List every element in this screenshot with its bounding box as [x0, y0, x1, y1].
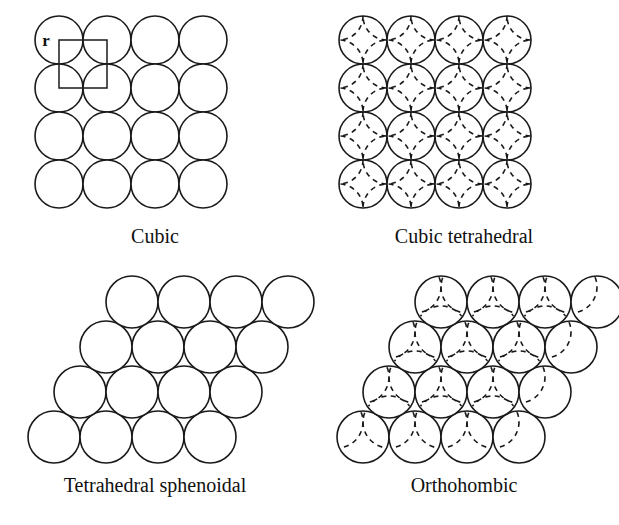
sphere: [35, 160, 83, 208]
sphere: [387, 16, 435, 64]
sphere: [184, 321, 236, 373]
sphere: [493, 321, 545, 373]
sphere: [483, 160, 531, 208]
sphere: [54, 366, 106, 418]
sphere: [467, 366, 519, 418]
sphere: [179, 64, 227, 112]
panel-caption-orthohombic: Orthohombic: [309, 474, 619, 496]
sphere: [415, 276, 467, 328]
panel-cubic-tetrahedral-art: [309, 4, 619, 219]
sphere: [389, 321, 441, 373]
sphere-group: [339, 16, 531, 208]
panel-caption-cubic: Cubic: [0, 225, 310, 247]
sphere: [80, 321, 132, 373]
panel-orthohombic-art: [309, 266, 619, 466]
sphere: [387, 112, 435, 160]
sphere: [131, 160, 179, 208]
sphere: [106, 276, 158, 328]
sphere: [158, 366, 210, 418]
sphere: [83, 112, 131, 160]
sphere: [519, 276, 571, 328]
sphere: [483, 16, 531, 64]
sphere: [363, 366, 415, 418]
sphere: [106, 366, 158, 418]
sphere: [519, 366, 571, 418]
sphere-group: [28, 276, 314, 463]
sphere: [483, 64, 531, 112]
sphere: [493, 411, 545, 463]
cubic-packing-diagram: r: [0, 4, 310, 219]
sphere: [179, 112, 227, 160]
panel-caption-cubic-tetrahedral: Cubic tetrahedral: [309, 225, 619, 247]
sphere: [339, 64, 387, 112]
sphere: [435, 112, 483, 160]
sphere: [545, 321, 597, 373]
panel-caption-tetrahedral-sphenoidal: Tetrahedral sphenoidal: [0, 474, 310, 496]
sphere: [132, 321, 184, 373]
sphere: [131, 112, 179, 160]
sphere: [179, 16, 227, 64]
sphere: [441, 321, 493, 373]
panel-cubic: r Cubic: [0, 4, 310, 247]
sphere: [387, 64, 435, 112]
panel-orthohombic: Orthohombic: [309, 266, 619, 496]
sphere: [389, 411, 441, 463]
sphere: [83, 160, 131, 208]
panel-tetrahedral-sphenoidal-art: [0, 266, 310, 466]
sphere: [158, 276, 210, 328]
sphere: [339, 16, 387, 64]
sphere: [35, 112, 83, 160]
sphere: [28, 411, 80, 463]
sphere: [339, 160, 387, 208]
radius-label: r: [42, 31, 50, 50]
sphere: [210, 276, 262, 328]
sphere: [179, 160, 227, 208]
sphere: [467, 276, 519, 328]
sphere: [435, 64, 483, 112]
cubic-tetrahedral-packing-diagram: [309, 4, 619, 219]
sphere: [435, 16, 483, 64]
tetrahedral-sphenoidal-packing-diagram: [0, 266, 310, 466]
sphere: [131, 16, 179, 64]
sphere: [132, 411, 184, 463]
sphere: [184, 411, 236, 463]
sphere: [339, 112, 387, 160]
sphere: [131, 64, 179, 112]
sphere: [435, 160, 483, 208]
panel-cubic-tetrahedral: Cubic tetrahedral: [309, 4, 619, 247]
sphere: [80, 411, 132, 463]
sphere: [387, 160, 435, 208]
sphere-packing-figure: r Cubic Cubic tetrahedral Tetrahedral sp…: [0, 0, 619, 525]
sphere: [415, 366, 467, 418]
sphere: [262, 276, 314, 328]
sphere: [236, 321, 288, 373]
orthohombic-packing-diagram: [309, 266, 619, 466]
panel-cubic-art: r: [0, 4, 310, 219]
sphere: [441, 411, 493, 463]
sphere: [337, 411, 389, 463]
sphere: [571, 276, 619, 328]
sphere-group: [35, 16, 227, 208]
sphere: [210, 366, 262, 418]
sphere: [483, 112, 531, 160]
sphere-group: [337, 276, 619, 463]
panel-tetrahedral-sphenoidal: Tetrahedral sphenoidal: [0, 266, 310, 496]
